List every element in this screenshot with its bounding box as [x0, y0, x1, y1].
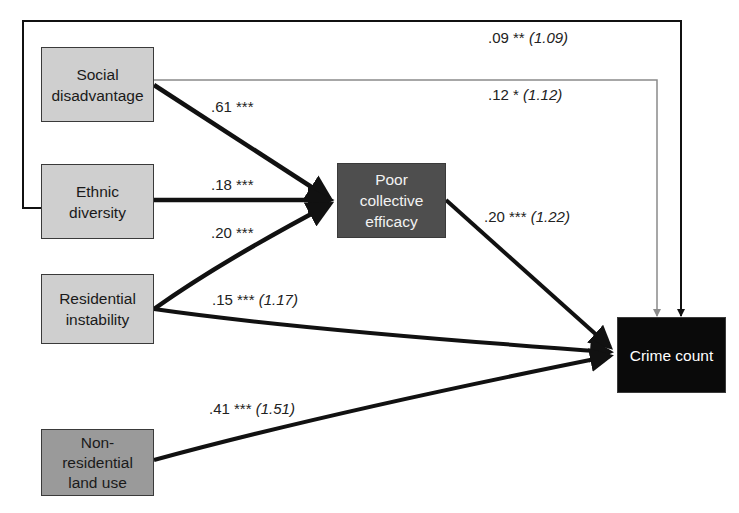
label-ethnic-efficacy: .18 ***	[211, 176, 254, 193]
label-efficacy-crime: .20 *** (1.22)	[484, 208, 570, 225]
node-label: Residential instability	[59, 288, 136, 330]
label-residential-crime: .15 *** (1.17)	[212, 291, 298, 308]
label-nonres-crime: .41 *** (1.51)	[209, 400, 295, 417]
node-crime-count: Crime count	[617, 317, 726, 393]
node-social-disadvantage: Social disadvantage	[41, 47, 154, 122]
node-label: Ethnic diversity	[69, 181, 126, 223]
label-social-crime: .12 * (1.12)	[488, 86, 562, 103]
node-label: Social disadvantage	[51, 64, 143, 106]
label-residential-efficacy: .20 ***	[211, 224, 254, 241]
node-label: Crime count	[630, 345, 714, 366]
label-ethnic-crime: .09 ** (1.09)	[488, 29, 568, 46]
node-label: Non- residential land use	[62, 433, 133, 493]
edge-residential-crime	[154, 309, 610, 352]
node-nonresidential-land-use: Non- residential land use	[41, 429, 154, 496]
node-label: Poor collective efficacy	[360, 169, 424, 232]
label-social-efficacy: .61 ***	[211, 98, 254, 115]
node-ethnic-diversity: Ethnic diversity	[41, 164, 154, 239]
node-poor-collective-efficacy: Poor collective efficacy	[337, 163, 446, 238]
node-residential-instability: Residential instability	[41, 274, 154, 344]
